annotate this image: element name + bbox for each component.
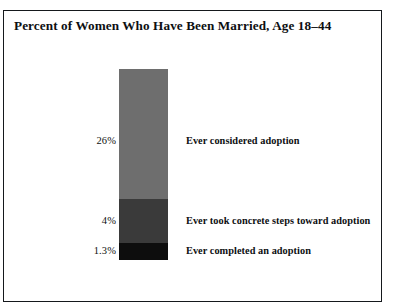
value-label-considered: 26% (46, 135, 116, 146)
figure-frame: Percent of Women Who Have Been Married, … (3, 10, 382, 302)
chart-plot-area: 26% 4% 1.3% Ever considered adoption Eve… (4, 11, 381, 301)
bar-segment-concrete-steps (119, 199, 168, 243)
category-label-considered: Ever considered adoption (186, 135, 300, 146)
stacked-bar (119, 69, 168, 260)
bar-segment-considered (119, 69, 168, 199)
category-label-completed: Ever completed an adoption (186, 245, 311, 256)
value-label-completed: 1.3% (46, 245, 116, 256)
category-label-concrete-steps: Ever took concrete steps toward adoption (186, 215, 370, 226)
bar-segment-completed (119, 243, 168, 260)
value-label-concrete-steps: 4% (46, 215, 116, 226)
